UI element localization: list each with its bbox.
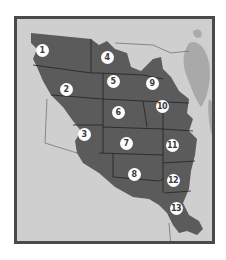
region-marker-3: 3 [78, 128, 91, 141]
region-marker-8: 8 [128, 168, 141, 181]
region-marker-11: 11 [166, 139, 179, 152]
region-marker-2: 2 [60, 83, 73, 96]
region-marker-10: 10 [156, 100, 169, 113]
region-marker-6: 6 [112, 106, 125, 119]
region-marker-12: 12 [167, 174, 180, 187]
region-marker-7: 7 [120, 137, 133, 150]
region-marker-9: 9 [146, 77, 159, 90]
map-frame: 12345678910111213 [14, 16, 215, 244]
region-marker-4: 4 [101, 51, 114, 64]
region-marker-13: 13 [170, 202, 183, 215]
region-marker-5: 5 [107, 75, 120, 88]
region-marker-1: 1 [36, 44, 49, 57]
